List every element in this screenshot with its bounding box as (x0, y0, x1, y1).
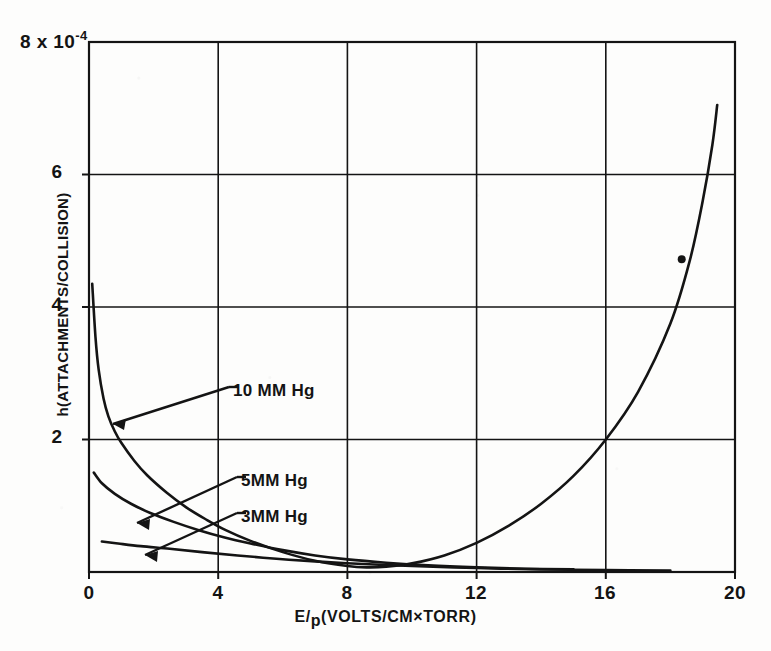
x-axis-title-main: E/ (294, 608, 310, 625)
x-tick-label-20: 20 (720, 582, 750, 604)
figure-container: 8 x 10-4 6 4 2 h(ATTACHMENTS/COLLISION) … (0, 0, 771, 651)
annotation-leaders (113, 387, 246, 562)
x-tick-label-16: 16 (590, 582, 620, 604)
y-axis-title: h(ATTACHMENTS/COLLISION) (54, 145, 71, 465)
curve-label-10mm-hg: 10 MM Hg (233, 381, 315, 401)
leader-line-3mm (145, 513, 237, 555)
data-point-marker-0 (678, 255, 686, 263)
curve-5mm-hg (94, 473, 574, 570)
y-axis-scale-label: 8 x 10-4 (20, 28, 88, 53)
leader-line-10mm (113, 387, 229, 424)
x-tick-label-8: 8 (332, 582, 362, 604)
x-tick-label-12: 12 (461, 582, 491, 604)
data-point-markers-layer (678, 255, 686, 263)
curve-label-3mm-hg: 3MM Hg (241, 507, 308, 527)
y-axis-scale-mantissa: 8 x 10 (20, 31, 75, 52)
x-tick-label-0: 0 (74, 582, 104, 604)
chart-plot-area (0, 0, 771, 651)
grid-and-frame (89, 42, 735, 572)
x-tick-label-4: 4 (203, 582, 233, 604)
x-axis-title: E/p(VOLTS/CM×TORR) (0, 608, 771, 630)
y-axis-scale-exponent: -4 (75, 28, 87, 43)
x-axis-title-units: (VOLTS/CM×TORR) (321, 608, 477, 625)
curve-3mm-hg (102, 542, 670, 571)
curve-label-5mm-hg: 5MM Hg (241, 471, 308, 491)
x-axis-title-subscript: p (311, 612, 321, 629)
leader-line-5mm (137, 477, 237, 523)
leader-arrowhead-10mm (113, 419, 126, 430)
